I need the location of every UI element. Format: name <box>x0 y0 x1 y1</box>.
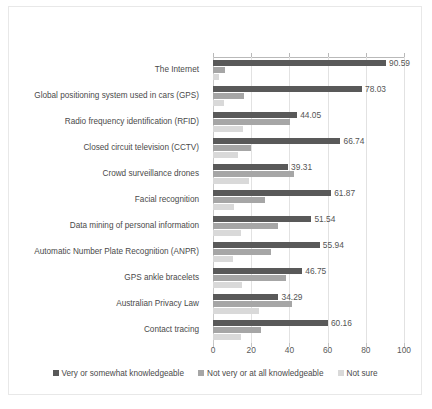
category-label: Global positioning system used in cars (… <box>9 91 199 101</box>
legend-item[interactable]: Not sure <box>338 369 378 378</box>
bar-value-label: 78.03 <box>365 85 386 93</box>
bar-2 <box>213 152 238 158</box>
bar-0 <box>213 268 302 274</box>
bar-cluster: 44.05 <box>213 109 408 135</box>
bar-2 <box>213 74 219 80</box>
chart-legend: Very or somewhat knowledgeableNot very o… <box>9 365 421 381</box>
category-label: The Internet <box>9 65 199 75</box>
bar-2 <box>213 126 243 132</box>
bar-0 <box>213 60 386 66</box>
legend-swatch-icon <box>53 370 59 376</box>
value-tick-label: 60 <box>323 345 332 355</box>
value-tick-label: 0 <box>211 345 216 355</box>
bar-1 <box>213 327 261 333</box>
chart-container: The InternetGlobal positioning system us… <box>8 6 422 395</box>
bar-cluster: 78.03 <box>213 83 408 109</box>
category-label: Closed circuit television (CCTV) <box>9 143 199 153</box>
bar-2 <box>213 204 234 210</box>
legend-swatch-icon <box>198 370 204 376</box>
bar-2 <box>213 282 242 288</box>
legend-label: Not very or at all knowledgeable <box>207 369 324 378</box>
bar-1 <box>213 223 278 229</box>
bar-2 <box>213 256 233 262</box>
bar-value-label: 34.29 <box>281 293 302 301</box>
bar-value-label: 90.59 <box>389 59 410 67</box>
category-label: Radio frequency identification (RFID) <box>9 117 199 127</box>
bar-2 <box>213 334 241 340</box>
bar-cluster: 66.74 <box>213 135 408 161</box>
bar-2 <box>213 100 224 106</box>
legend-item[interactable]: Not very or at all knowledgeable <box>198 369 324 378</box>
plot-area: 90.5978.0344.0566.7439.3161.8751.5455.94… <box>213 57 408 343</box>
bar-2 <box>213 178 249 184</box>
bar-0 <box>213 190 331 196</box>
bar-value-label: 39.31 <box>291 163 312 171</box>
category-label: Australian Privacy Law <box>9 299 199 309</box>
bar-0 <box>213 164 288 170</box>
bar-cluster: 51.54 <box>213 213 408 239</box>
bar-1 <box>213 67 225 73</box>
bar-2 <box>213 230 241 236</box>
legend-swatch-icon <box>338 370 344 376</box>
bar-value-label: 60.16 <box>331 319 352 327</box>
bar-value-label: 55.94 <box>323 241 344 249</box>
value-tick-label: 100 <box>397 345 411 355</box>
category-axis-labels: The InternetGlobal positioning system us… <box>9 57 205 343</box>
bar-value-label: 61.87 <box>334 189 355 197</box>
bar-2 <box>213 308 259 314</box>
bar-cluster: 60.16 <box>213 317 408 343</box>
bar-value-label: 51.54 <box>314 215 335 223</box>
bar-0 <box>213 112 297 118</box>
category-label: Contact tracing <box>9 325 199 335</box>
bar-1 <box>213 93 244 99</box>
bar-1 <box>213 145 251 151</box>
bar-value-label: 46.75 <box>305 267 326 275</box>
bar-0 <box>213 138 340 144</box>
bar-0 <box>213 320 328 326</box>
bar-1 <box>213 171 294 177</box>
bar-1 <box>213 249 271 255</box>
bar-cluster: 46.75 <box>213 265 408 291</box>
bar-1 <box>213 119 290 125</box>
bar-value-label: 66.74 <box>343 137 364 145</box>
category-label: Data mining of personal information <box>9 221 199 231</box>
bar-0 <box>213 216 311 222</box>
bar-cluster: 55.94 <box>213 239 408 265</box>
value-tick-label: 80 <box>361 345 370 355</box>
category-label: Automatic Number Plate Recognition (ANPR… <box>9 247 199 257</box>
bar-cluster: 39.31 <box>213 161 408 187</box>
category-label: Crowd surveillance drones <box>9 169 199 179</box>
bar-0 <box>213 294 278 300</box>
bar-cluster: 61.87 <box>213 187 408 213</box>
bar-value-label: 44.05 <box>300 111 321 119</box>
bar-1 <box>213 301 292 307</box>
bar-0 <box>213 86 362 92</box>
category-label: GPS ankle bracelets <box>9 273 199 283</box>
category-label: Facial recognition <box>9 195 199 205</box>
legend-item[interactable]: Very or somewhat knowledgeable <box>53 369 184 378</box>
value-tick-label: 20 <box>247 345 256 355</box>
bar-cluster: 90.59 <box>213 57 408 83</box>
plot-wrapper: The InternetGlobal positioning system us… <box>9 7 421 394</box>
bar-0 <box>213 242 320 248</box>
bar-1 <box>213 197 265 203</box>
legend-label: Very or somewhat knowledgeable <box>62 369 184 378</box>
value-tick-label: 40 <box>285 345 294 355</box>
legend-label: Not sure <box>347 369 378 378</box>
value-axis-tick-labels: 020406080100 <box>213 345 408 359</box>
bar-1 <box>213 275 286 281</box>
bar-cluster: 34.29 <box>213 291 408 317</box>
